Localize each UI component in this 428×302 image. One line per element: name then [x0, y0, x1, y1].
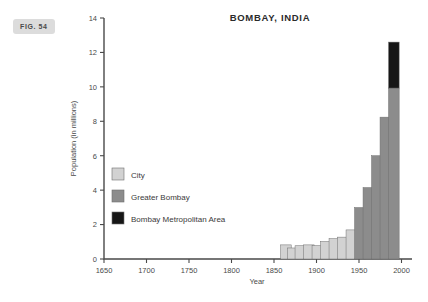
y-tick-label-2: 2: [93, 220, 97, 229]
y-tick-label-12: 12: [89, 48, 97, 57]
y-tick-label-4: 4: [93, 186, 97, 195]
y-tick-label-14: 14: [89, 14, 97, 23]
x-tick-label-1750: 1750: [181, 266, 198, 275]
x-tick-label-1800: 1800: [223, 266, 240, 275]
x-tick-label-1950: 1950: [351, 266, 368, 275]
x-tick-label-2000: 2000: [393, 266, 410, 275]
x-tick-label-1700: 1700: [138, 266, 155, 275]
legend-swatch-2: [112, 212, 124, 224]
chart-plot-area: 0246810121416501700175018001850190019502…: [0, 0, 428, 302]
y-tick-label-6: 6: [93, 152, 97, 161]
legend-label-1: Greater Bombay: [131, 193, 190, 202]
x-tick-label-1650: 1650: [96, 266, 113, 275]
bar-segment: [389, 88, 400, 259]
x-tick-label-1850: 1850: [266, 266, 283, 275]
y-tick-label-8: 8: [93, 117, 97, 126]
y-axis-title: Population (in millions): [69, 100, 78, 176]
legend-swatch-1: [112, 190, 124, 202]
x-axis-title: Year: [249, 277, 265, 286]
x-tick-label-1900: 1900: [308, 266, 325, 275]
y-tick-label-0: 0: [93, 255, 97, 264]
y-tick-label-10: 10: [89, 83, 97, 92]
legend-swatch-0: [112, 168, 124, 180]
population-bar-chart: 0246810121416501700175018001850190019502…: [0, 0, 428, 302]
legend-label-2: Bombay Metropolitan Area: [131, 215, 226, 224]
legend-label-0: City: [131, 171, 145, 180]
bar-segment: [389, 42, 400, 88]
